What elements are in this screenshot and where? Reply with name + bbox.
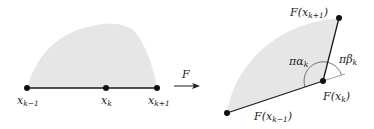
point-x-k-minus-1 bbox=[24, 85, 30, 91]
label-F-x-k: F(xk) bbox=[322, 90, 350, 104]
right-panel: F(xk−1) F(xk) F(xk+1) παk πβk bbox=[224, 6, 358, 124]
angle-label-beta: πβk bbox=[338, 53, 358, 67]
left-panel: xk−1 xk xk+1 bbox=[17, 24, 170, 108]
label-F-x-k-plus-1: F(xk+1) bbox=[289, 6, 328, 20]
point-F-x-k-minus-1 bbox=[224, 110, 230, 116]
label-x-k-minus-1: xk−1 bbox=[17, 94, 39, 108]
label-F-x-k-minus-1: F(xk−1) bbox=[253, 110, 292, 124]
map-label-F: F bbox=[181, 68, 190, 81]
map-arrow: F bbox=[174, 68, 200, 89]
point-F-x-k-plus-1 bbox=[336, 15, 342, 21]
point-x-k bbox=[103, 85, 109, 91]
label-x-k: xk bbox=[101, 94, 112, 108]
domain-shaded-region bbox=[27, 24, 157, 88]
point-x-k-plus-1 bbox=[154, 85, 160, 91]
label-x-k-plus-1: xk+1 bbox=[148, 94, 170, 108]
tangent-extension bbox=[323, 74, 345, 81]
point-F-x-k bbox=[320, 78, 326, 84]
diagram-canvas: xk−1 xk xk+1 F F(xk−1) F(xk) F(xk+1) παk… bbox=[0, 0, 374, 129]
